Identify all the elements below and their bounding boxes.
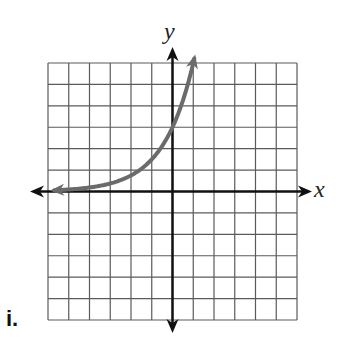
y-axis-label: y xyxy=(164,18,175,45)
figure-label: i. xyxy=(6,306,18,332)
x-axis-label: x xyxy=(314,176,325,203)
coordinate-plane xyxy=(0,0,339,340)
